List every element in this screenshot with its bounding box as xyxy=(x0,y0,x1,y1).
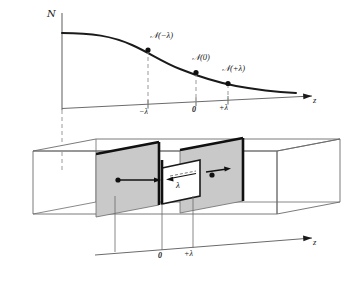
xtick-label-plus-lambda: +λ xyxy=(219,103,228,112)
data-point-minus-lambda xyxy=(145,47,150,52)
xtick-label-zero: 0 xyxy=(192,105,196,114)
mean-free-path-label: λ xyxy=(176,180,180,190)
slab-axis-label: z xyxy=(313,237,316,247)
plane-zero xyxy=(162,160,200,204)
slab-tick-label-plus-lambda: +λ xyxy=(184,249,193,258)
point-label-minus-lambda: 𝒩(−λ) xyxy=(150,30,173,41)
figure-canvas xyxy=(0,0,364,281)
plot-group xyxy=(62,13,312,110)
slab-axis-line xyxy=(95,238,312,255)
point-label-zero: 𝒩(0) xyxy=(192,52,210,63)
box-right-face xyxy=(277,139,340,214)
y-axis-label: N xyxy=(47,8,56,19)
slab-group xyxy=(33,138,340,255)
point-label-plus-lambda: 𝒩(+λ) xyxy=(222,63,245,74)
x-axis-line xyxy=(62,96,312,109)
x-axis-arrowhead xyxy=(303,93,312,99)
xtick-label-minus-lambda: −λ xyxy=(139,107,148,116)
x-axis-label: z xyxy=(313,95,316,105)
density-curve xyxy=(62,33,296,93)
slab-axis-arrowhead xyxy=(303,235,312,241)
data-point-plus-lambda xyxy=(225,81,230,86)
box-left-bottom-diagonal xyxy=(33,202,96,214)
particle-dot-right xyxy=(209,172,214,177)
figure-root: N z 𝒩(−λ) 𝒩(0) 𝒩(+λ) −λ 0 +λ λ 0 +λ z xyxy=(0,0,364,281)
data-point-zero xyxy=(193,70,198,75)
slab-tick-label-zero: 0 xyxy=(158,251,162,260)
